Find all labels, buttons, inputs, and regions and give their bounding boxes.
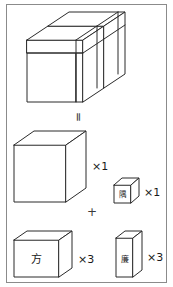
plus-operator: + (87, 205, 97, 219)
part-corner-cube (114, 178, 139, 203)
square-slab-label: 方 (31, 252, 42, 266)
part-bar-prism (116, 231, 142, 277)
square-slab-multiplier: ×3 (78, 253, 94, 266)
part-big-cube (14, 131, 86, 202)
bar-prism-multiplier: ×3 (147, 251, 163, 264)
assembled-large-cube (27, 12, 125, 102)
part-square-slab (14, 231, 72, 277)
bar-prism-right-face (133, 231, 142, 277)
big-cube-multiplier: ×1 (92, 160, 108, 173)
corner-cube-multiplier: ×1 (144, 186, 160, 199)
cube-front-upper-band (27, 40, 83, 53)
equals-operator: = (72, 112, 86, 122)
big-cube-front-face (14, 145, 66, 202)
cube-right-face-upper-slab (104, 12, 125, 88)
cube-right-face-lower-block (83, 26, 104, 102)
geometric-dissection-figure: = ×1 隅 ×1 + 方 ×3 廉 ×3 (0, 0, 173, 287)
corner-cube-label: 隅 (119, 190, 126, 199)
bar-prism-label: 廉 (121, 254, 129, 264)
